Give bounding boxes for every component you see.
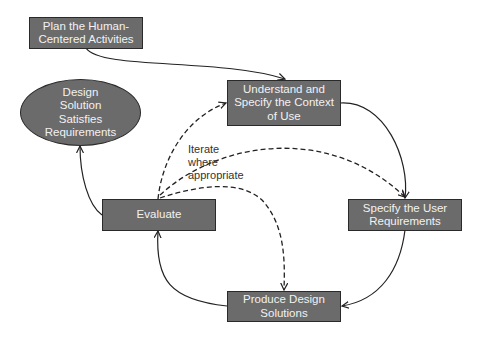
- node-label: Specify the User Requirements: [363, 202, 447, 229]
- edge-understand-to-specify: [340, 103, 406, 198]
- edge-specify-to-produce: [342, 230, 405, 306]
- edge-evaluate-to-satisfies: [80, 146, 102, 215]
- edge-produce-to-evaluate: [158, 231, 227, 306]
- node-label: Design Solution Satisfies Requirements: [45, 86, 117, 140]
- node-label: Understand and Specify the Context of Us…: [234, 83, 334, 124]
- node-specify-user-requirements: Specify the User Requirements: [348, 199, 462, 231]
- node-label: Plan the Human- Centered Activities: [38, 20, 133, 47]
- node-label: Evaluate: [137, 208, 182, 222]
- iterate-annotation: Iterate where appropriate: [188, 143, 244, 182]
- node-produce-design-solutions: Produce Design Solutions: [227, 291, 341, 322]
- node-evaluate: Evaluate: [102, 199, 216, 231]
- node-label: Produce Design Solutions: [243, 293, 325, 320]
- node-understand-context-of-use: Understand and Specify the Context of Us…: [227, 80, 341, 126]
- node-plan-human-centered-activities: Plan the Human- Centered Activities: [29, 17, 143, 49]
- node-design-solution-satisfies-requirements: Design Solution Satisfies Requirements: [20, 79, 141, 146]
- edge-plan-to-understand: [86, 48, 285, 79]
